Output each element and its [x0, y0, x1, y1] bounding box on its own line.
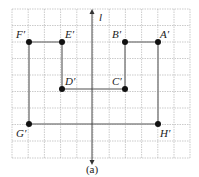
point-c — [122, 86, 128, 92]
points — [26, 39, 161, 127]
axis-l: l — [90, 9, 103, 165]
figure-caption: (a) — [86, 163, 99, 176]
label-c: C′ — [112, 75, 122, 87]
label-g: G′ — [16, 127, 27, 139]
label-h: H′ — [159, 127, 171, 139]
axis-label: l — [99, 11, 102, 23]
label-e: E′ — [64, 28, 75, 40]
point-f — [26, 39, 32, 45]
label-b: B′ — [112, 28, 122, 40]
point-b — [122, 39, 128, 45]
reflection-diagram: l F′ E′ D′ C′ B′ A′ G′ H′ (a) — [0, 0, 199, 177]
figure-outline — [29, 42, 158, 124]
point-g — [26, 121, 32, 127]
label-a: A′ — [159, 28, 170, 40]
label-f: F′ — [15, 28, 26, 40]
label-d: D′ — [64, 75, 76, 87]
arrow-up-icon — [90, 9, 95, 14]
